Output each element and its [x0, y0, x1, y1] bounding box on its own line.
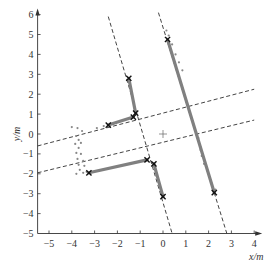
- scatter-point: [168, 34, 170, 36]
- scatter-point: [78, 147, 80, 149]
- x-tick-label: −5: [44, 238, 55, 249]
- dashed-lines: [38, 13, 255, 234]
- y-tick-label: −5: [23, 228, 34, 239]
- scatter-point: [79, 169, 81, 171]
- scatter-point: [71, 126, 73, 128]
- scatter-point: [82, 172, 84, 174]
- scatter-point: [165, 29, 167, 31]
- seg-lower-left-horizontal: [89, 160, 147, 173]
- scatter-point: [80, 153, 82, 155]
- origin-marker: [159, 130, 167, 138]
- scatter-point: [96, 127, 98, 129]
- axes: −5−4−3−2−101234 −5−4−3−2−10123456 x/m y/…: [11, 9, 263, 262]
- scatter-point: [78, 139, 80, 141]
- seg-right-long: [168, 39, 215, 192]
- x-axis-label: x/m: [248, 251, 263, 262]
- x-tick-label: −4: [66, 238, 77, 249]
- dashed-line-left-steep: [108, 17, 172, 234]
- y-tick-label: 6: [29, 9, 34, 20]
- x-tick-label: −1: [135, 238, 146, 249]
- dashed-line-lower-shallow: [38, 120, 255, 173]
- scatter-point: [75, 135, 77, 137]
- x-tick-label: 1: [183, 238, 188, 249]
- y-tick-label: −2: [23, 168, 34, 179]
- scatter-point: [83, 165, 85, 167]
- scatter-point: [81, 130, 83, 132]
- scatter-point: [103, 125, 105, 127]
- x-tick-label: −3: [89, 238, 100, 249]
- dashed-line-upper-shallow: [38, 89, 255, 146]
- scatter-point: [181, 69, 183, 71]
- trajectory-segments: [89, 39, 214, 196]
- y-tick-label: −4: [23, 208, 34, 219]
- x-tick-label: 2: [206, 238, 211, 249]
- seg-lower-vertical: [154, 164, 163, 197]
- seg-upper-left-vertical: [129, 78, 136, 113]
- scatter-point: [75, 152, 77, 154]
- chart-canvas: −5−4−3−2−101234 −5−4−3−2−10123456 x/m y/…: [0, 0, 266, 264]
- scatter-point: [178, 61, 180, 63]
- y-tick-label: 2: [29, 89, 34, 100]
- scatter-point: [78, 164, 80, 166]
- x-tick-label: 0: [161, 238, 166, 249]
- x-markers: [86, 37, 217, 199]
- y-tick-label: −3: [23, 188, 34, 199]
- y-tick-label: 0: [29, 129, 34, 140]
- scatter-point: [76, 158, 78, 160]
- x-tick-label: 4: [252, 238, 257, 249]
- x-axis-arrow-icon: [255, 231, 262, 235]
- y-tick-label: 4: [29, 49, 34, 60]
- scatter-points: [71, 29, 217, 190]
- scatter-point: [80, 142, 82, 144]
- x-tick-label: −2: [112, 238, 123, 249]
- y-axis-label: y/m: [11, 127, 22, 142]
- y-tick-label: 3: [29, 69, 34, 80]
- y-tick-label: 5: [29, 29, 34, 40]
- scatter-point: [171, 43, 173, 45]
- scatter-point: [174, 53, 176, 55]
- x-tick-label: 3: [229, 238, 234, 249]
- y-tick-label: 1: [29, 109, 34, 120]
- scatter-point: [82, 160, 84, 162]
- scatter-point: [75, 173, 77, 175]
- scatter-point: [74, 143, 76, 145]
- scatter-point: [76, 127, 78, 129]
- y-tick-label: −1: [23, 148, 34, 159]
